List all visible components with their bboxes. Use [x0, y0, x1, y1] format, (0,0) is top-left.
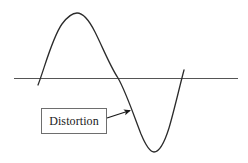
distortion-label-box: Distortion: [41, 108, 107, 134]
distortion-label-text: Distortion: [49, 115, 99, 127]
figure-canvas: Distortion: [0, 0, 248, 163]
annotation-arrow: [107, 111, 130, 119]
waveform-diagram: [0, 0, 248, 163]
